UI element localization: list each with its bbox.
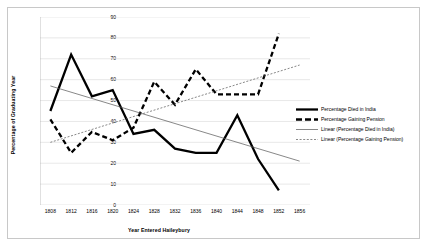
legend-item-label: Percentage Gaining Pension: [321, 117, 385, 122]
legend-item-label: Percentage Died in India: [321, 107, 376, 112]
legend-item[interactable]: Linear (Percentage Gaining Pension): [296, 134, 424, 144]
x-axis-title: Year Entered Haileybury: [0, 227, 318, 233]
series-line: [50, 86, 299, 161]
legend-item-label: Linear (Percentage Gaining Pension): [321, 137, 403, 142]
series-line: [50, 34, 278, 153]
series-line: [50, 65, 299, 142]
legend-swatch-icon: [296, 116, 318, 123]
x-tick-label: 1856: [285, 209, 315, 214]
legend-item-label: Linear (Percentage Died in India): [321, 127, 394, 132]
series-lines: [50, 34, 299, 191]
legend-item[interactable]: Percentage Died in India: [296, 104, 424, 114]
y-axis-title: Percentage of Graduating Year: [10, 40, 16, 190]
series-line: [50, 55, 278, 191]
legend-swatch-icon: [296, 136, 318, 143]
legend-swatch-icon: [296, 126, 318, 133]
legend-item[interactable]: Linear (Percentage Died in India): [296, 124, 424, 134]
chart-container: 0102030405060708090 18081812181618201824…: [0, 0, 429, 247]
legend-item[interactable]: Percentage Gaining Pension: [296, 114, 424, 124]
chart-legend: Percentage Died in IndiaPercentage Gaini…: [296, 104, 424, 144]
plot-area: [40, 17, 310, 205]
legend-swatch-icon: [296, 106, 318, 113]
